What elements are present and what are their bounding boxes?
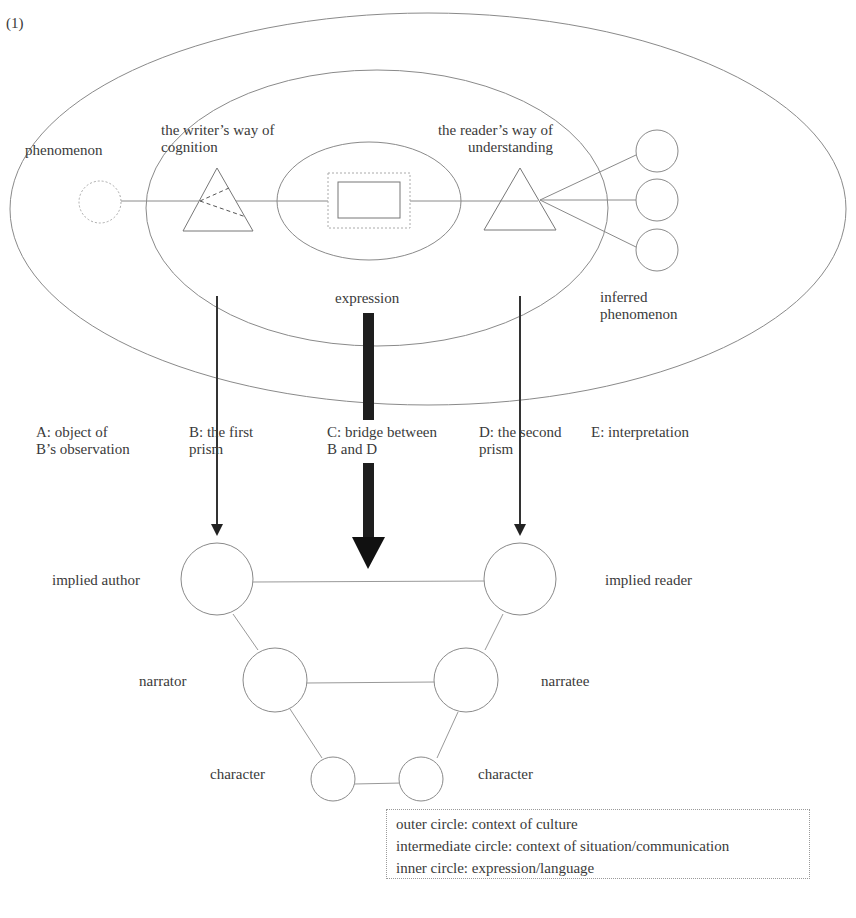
- role-b-label: B: the first prism: [189, 424, 253, 458]
- writer-way-label-line1: the writer’s way of: [161, 122, 274, 139]
- role-d-line2: prism: [479, 441, 561, 458]
- reader-narratee-link: [485, 614, 503, 650]
- ray-upper: [540, 155, 636, 200]
- inferred-phenomenon-label: inferred phenomenon: [600, 289, 677, 323]
- reader-way-label-line1: the reader’s way of: [401, 122, 553, 139]
- inferred-label-line1: inferred: [600, 289, 677, 306]
- reader-way-label: the reader’s way of understanding: [401, 122, 553, 156]
- character-left-label: character: [210, 766, 265, 783]
- role-c-label: C: bridge between B and D: [327, 424, 437, 458]
- character-right-label: character: [478, 766, 533, 783]
- bridge-arrow-head-icon: [352, 537, 385, 569]
- narratee-character-link: [437, 712, 458, 758]
- role-c-line2: B and D: [327, 441, 437, 458]
- inferred-phenomenon-circle-2: [636, 179, 678, 221]
- character-left-node: [311, 757, 355, 801]
- role-b-line2: prism: [189, 441, 253, 458]
- reader-way-label-line2: understanding: [401, 139, 553, 156]
- legend-outer: outer circle: context of culture: [396, 813, 809, 835]
- narrator-character-link: [290, 709, 322, 758]
- role-e-label: E: interpretation: [591, 424, 689, 441]
- bridge-bar-lower: [363, 463, 374, 538]
- bridge-bar-upper: [363, 313, 374, 420]
- writer-way-label: the writer’s way of cognition: [161, 122, 274, 156]
- arrow-b-head-icon: [211, 524, 223, 536]
- expression-inner-box: [338, 182, 400, 218]
- inferred-phenomenon-circle-3: [636, 229, 678, 271]
- outer-circle-culture: [10, 13, 846, 405]
- figure-number: (1): [6, 15, 24, 32]
- legend-intermediate: intermediate circle: context of situatio…: [396, 835, 809, 857]
- role-a-line2: B’s observation: [36, 441, 130, 458]
- ray-lower: [540, 200, 636, 247]
- character-character-link: [354, 783, 402, 784]
- author-reader-link: [253, 581, 486, 582]
- role-c-line1: C: bridge between: [327, 424, 437, 441]
- role-d-label: D: the second prism: [479, 424, 561, 458]
- narrator-label: narrator: [139, 673, 186, 690]
- character-right-node: [399, 757, 443, 801]
- inferred-label-line2: phenomenon: [600, 306, 677, 323]
- arrow-d-head-icon: [514, 524, 526, 536]
- phenomenon-label: phenomenon: [25, 142, 102, 159]
- role-b-line1: B: the first: [189, 424, 253, 441]
- author-narrator-link: [233, 614, 258, 650]
- role-d-line1: D: the second: [479, 424, 561, 441]
- role-a-line1: A: object of: [36, 424, 130, 441]
- implied-author-label: implied author: [52, 572, 140, 589]
- narrator-narratee-link: [306, 682, 436, 683]
- narratee-node: [434, 648, 498, 712]
- expression-label: expression: [335, 290, 399, 307]
- implied-reader-label: implied reader: [605, 572, 692, 589]
- legend-inner: inner circle: expression/language: [396, 857, 809, 879]
- implied-author-node: [181, 543, 253, 615]
- role-a-label: A: object of B’s observation: [36, 424, 130, 458]
- implied-reader-node: [484, 543, 556, 615]
- legend-box: outer circle: context of culture interme…: [386, 809, 810, 879]
- narratee-label: narratee: [541, 673, 589, 690]
- writer-prism-icon: [183, 168, 253, 231]
- role-e-line1: E: interpretation: [591, 424, 689, 441]
- writer-way-label-line2: cognition: [161, 139, 274, 156]
- reader-prism-icon: [484, 168, 556, 230]
- narrator-node: [243, 648, 307, 712]
- inferred-phenomenon-circle-1: [636, 130, 678, 172]
- phenomenon-circle-icon: [79, 181, 121, 223]
